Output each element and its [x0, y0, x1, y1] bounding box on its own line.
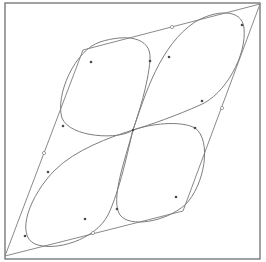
- point-dot-icon: [62, 125, 65, 128]
- point-dot-icon: [47, 171, 50, 174]
- point-dot-icon: [194, 127, 197, 130]
- lobe-lower-right: [117, 124, 205, 223]
- point-dot-icon: [241, 24, 244, 27]
- diagram-svg: [0, 0, 266, 262]
- lobe-lower-left: [26, 130, 133, 246]
- curve-points: [24, 24, 244, 238]
- hollow-marker-icon: [91, 231, 94, 234]
- point-dot-icon: [201, 100, 204, 103]
- lobe-upper-left: [61, 38, 151, 136]
- hollow-marker-icon: [220, 106, 223, 109]
- point-dot-icon: [116, 208, 119, 211]
- diagram-canvas: [0, 0, 266, 262]
- lobe-upper-right: [133, 13, 244, 130]
- hollow-marker-icon: [170, 25, 173, 28]
- four-lobed-curve: [26, 13, 245, 247]
- point-dot-icon: [149, 60, 152, 63]
- hollow-marker-icon: [42, 151, 45, 154]
- point-dot-icon: [175, 196, 178, 199]
- point-dot-icon: [132, 129, 135, 132]
- point-dot-icon: [84, 218, 87, 221]
- point-dot-icon: [90, 61, 93, 64]
- point-dot-icon: [168, 56, 171, 59]
- point-dot-icon: [24, 235, 27, 238]
